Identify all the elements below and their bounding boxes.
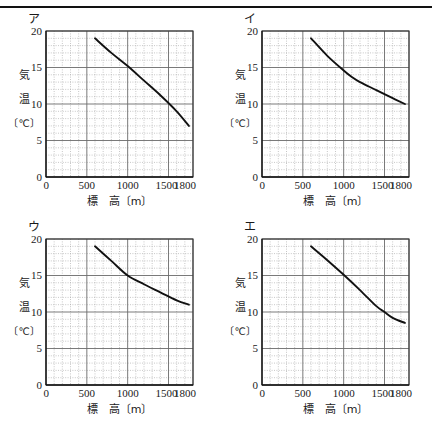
y-tick-label: 15 bbox=[31, 269, 43, 281]
y-axis-title: 〔℃〕 bbox=[8, 118, 39, 129]
y-tick-label: 10 bbox=[31, 98, 43, 110]
x-tick-label: 1800 bbox=[174, 387, 197, 399]
x-tick-label: 1000 bbox=[117, 179, 140, 191]
x-tick-label: 0 bbox=[260, 179, 266, 191]
panel-b-grid bbox=[262, 31, 409, 177]
x-tick-label: 500 bbox=[295, 387, 312, 399]
y-tick-label: 20 bbox=[31, 25, 43, 37]
y-axis-title: 気 bbox=[19, 68, 30, 82]
y-tick-label: 20 bbox=[247, 233, 259, 245]
top-rule-divider bbox=[0, 6, 432, 8]
figure-page: ア 051015200500100015001800気温〔℃〕標 高〔m〕 イ … bbox=[0, 0, 432, 426]
y-tick-label: 0 bbox=[37, 171, 43, 183]
panel-c-grid bbox=[46, 239, 193, 385]
x-tick-label: 0 bbox=[260, 387, 266, 399]
panel-a-chart: 051015200500100015001800気温〔℃〕標 高〔m〕 bbox=[0, 9, 216, 217]
x-axis-title: 標 高〔m〕 bbox=[87, 402, 153, 416]
y-axis-title: 温 bbox=[235, 93, 246, 106]
panel-grid: ア 051015200500100015001800気温〔℃〕標 高〔m〕 イ … bbox=[0, 9, 432, 426]
y-tick-label: 0 bbox=[37, 379, 43, 391]
y-tick-label: 5 bbox=[37, 342, 43, 354]
panel-c-chart: 051015200500100015001800気温〔℃〕標 高〔m〕 bbox=[0, 217, 216, 425]
x-tick-label: 1000 bbox=[333, 179, 356, 191]
x-tick-label: 1000 bbox=[333, 387, 356, 399]
y-axis-title: 温 bbox=[235, 301, 246, 314]
x-tick-label: 0 bbox=[44, 179, 50, 191]
panel-b-chart: 051015200500100015001800気温〔℃〕標 高〔m〕 bbox=[216, 9, 432, 217]
panel-d: エ 051015200500100015001800気温〔℃〕標 高〔m〕 bbox=[216, 217, 432, 425]
y-tick-label: 5 bbox=[253, 342, 259, 354]
y-tick-label: 5 bbox=[253, 134, 259, 146]
y-axis-title: 〔℃〕 bbox=[224, 118, 255, 129]
y-tick-label: 0 bbox=[253, 171, 259, 183]
x-tick-label: 1800 bbox=[174, 179, 197, 191]
panel-a: ア 051015200500100015001800気温〔℃〕標 高〔m〕 bbox=[0, 9, 216, 217]
x-axis-title: 標 高〔m〕 bbox=[87, 194, 153, 208]
y-tick-label: 20 bbox=[247, 25, 259, 37]
y-axis-title: 〔℃〕 bbox=[8, 326, 39, 337]
y-tick-label: 10 bbox=[247, 306, 259, 318]
y-tick-label: 10 bbox=[31, 306, 43, 318]
y-tick-label: 15 bbox=[31, 61, 43, 73]
x-tick-label: 500 bbox=[79, 179, 96, 191]
x-tick-label: 500 bbox=[295, 179, 312, 191]
x-tick-label: 1800 bbox=[390, 387, 413, 399]
y-axis-title: 温 bbox=[19, 301, 30, 314]
y-axis-title: 〔℃〕 bbox=[224, 326, 255, 337]
y-axis-title: 気 bbox=[19, 276, 30, 290]
x-tick-label: 1000 bbox=[117, 387, 140, 399]
y-axis-title: 気 bbox=[235, 68, 246, 82]
panel-a-grid bbox=[46, 31, 193, 177]
y-axis-title: 気 bbox=[235, 276, 246, 290]
x-axis-title: 標 高〔m〕 bbox=[303, 194, 369, 208]
x-tick-label: 500 bbox=[79, 387, 96, 399]
y-tick-label: 0 bbox=[253, 379, 259, 391]
y-tick-label: 15 bbox=[247, 269, 259, 281]
y-tick-label: 15 bbox=[247, 61, 259, 73]
panel-c: ウ 051015200500100015001800気温〔℃〕標 高〔m〕 bbox=[0, 217, 216, 425]
y-tick-label: 5 bbox=[37, 134, 43, 146]
x-axis-title: 標 高〔m〕 bbox=[303, 402, 369, 416]
x-tick-label: 0 bbox=[44, 387, 50, 399]
y-tick-label: 20 bbox=[31, 233, 43, 245]
panel-b: イ 051015200500100015001800気温〔℃〕標 高〔m〕 bbox=[216, 9, 432, 217]
y-tick-label: 10 bbox=[247, 98, 259, 110]
y-axis-title: 温 bbox=[19, 93, 30, 106]
panel-d-chart: 051015200500100015001800気温〔℃〕標 高〔m〕 bbox=[216, 217, 432, 425]
panel-d-grid bbox=[262, 239, 409, 385]
x-tick-label: 1800 bbox=[390, 179, 413, 191]
